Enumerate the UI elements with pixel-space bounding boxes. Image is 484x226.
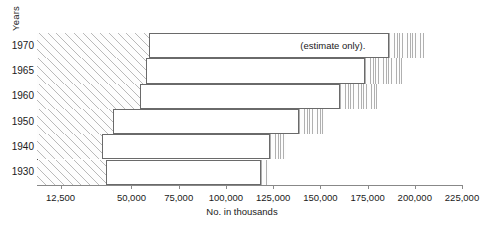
bar-segment-projected-1960	[339, 84, 377, 109]
bar-segment-projected-1950	[298, 109, 324, 134]
y-tick-label-1970: 1970	[3, 41, 34, 51]
x-tick-label-200000: 200,000	[398, 192, 432, 203]
x-tick-50000	[131, 185, 132, 189]
x-tick-label-150000: 150,000	[303, 192, 337, 203]
bar-segment-projected-1970	[388, 33, 424, 58]
y-tick-label-1940: 1940	[3, 142, 34, 152]
bar-segment-projected-1940	[269, 134, 286, 159]
bar-segment-established-1960	[37, 84, 141, 109]
y-tick-label-1950: 1950	[3, 117, 34, 127]
bar-segment-established-1950	[37, 109, 114, 134]
bar-row	[37, 58, 402, 83]
bar-row	[37, 134, 286, 159]
x-tick-150000	[320, 185, 321, 189]
y-axis-title: Years	[10, 2, 40, 36]
bar-row	[37, 84, 377, 109]
bar-segment-established-1930	[37, 160, 107, 185]
x-tick-label-100000: 100,000	[209, 192, 243, 203]
bar-segment-established-1965	[37, 58, 147, 83]
x-tick-label-125000: 125,000	[256, 192, 290, 203]
bar-chart: Years 197019651960195019401930 12,50050,…	[0, 0, 484, 226]
bar-row	[37, 109, 324, 134]
bar-row	[37, 33, 424, 58]
bar-row	[37, 160, 269, 185]
bar-segment-established-1970	[37, 33, 150, 58]
x-tick-label-75000: 75,000	[164, 192, 193, 203]
x-axis-line	[37, 185, 462, 186]
bar-segment-established-1940	[37, 134, 103, 159]
x-tick-75000	[179, 185, 180, 189]
x-tick-label-12500: 12,500	[46, 192, 75, 203]
bar-segment-projected-1965	[364, 58, 402, 83]
x-tick-label-175000: 175,000	[350, 192, 384, 203]
x-tick-100000	[226, 185, 227, 189]
y-tick-label-1960: 1960	[3, 91, 34, 101]
y-tick-label-1930: 1930	[3, 167, 34, 177]
x-axis-title: No. in thousands	[0, 206, 484, 217]
x-tick-12500	[61, 185, 62, 189]
y-tick-label-1965: 1965	[3, 66, 34, 76]
x-tick-225000	[462, 185, 463, 189]
bar-segment-projected-1930	[260, 160, 269, 185]
x-tick-200000	[415, 185, 416, 189]
x-tick-label-50000: 50,000	[117, 192, 146, 203]
x-tick-label-225000: 225,000	[445, 192, 479, 203]
x-tick-125000	[273, 185, 274, 189]
estimate-only-annotation: (estimate only).	[300, 40, 365, 51]
x-tick-175000	[368, 185, 369, 189]
